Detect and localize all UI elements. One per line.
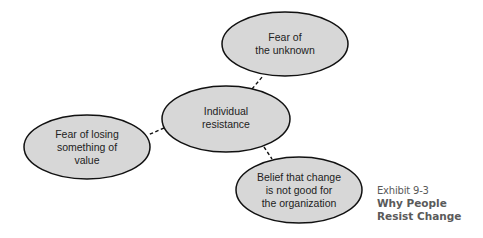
node-label-center: Individual resistance (202, 105, 250, 131)
node-text-line: the organization (257, 197, 341, 210)
exhibit-caption: Exhibit 9-3 Why People Resist Change (377, 184, 461, 223)
node-label-top: Fear of the unknown (255, 31, 315, 57)
node-label-left: Fear of losing something of value (55, 128, 119, 167)
exhibit-number: Exhibit 9-3 (377, 184, 461, 197)
exhibit-title-line: Why People (377, 197, 461, 210)
connector-center-bottom-right (264, 147, 272, 159)
diagram-canvas: Fear of the unknown Individual resistanc… (0, 0, 483, 238)
node-text-line: resistance (202, 118, 250, 131)
node-text-line: Belief that change (257, 171, 341, 184)
connector-center-top (252, 76, 263, 89)
node-text-line: the unknown (255, 44, 315, 57)
exhibit-title: Why People Resist Change (377, 197, 461, 223)
node-text-line: Fear of losing (55, 128, 119, 141)
node-text-line: Fear of (255, 31, 315, 44)
connector-center-left (148, 128, 164, 135)
node-text-line: something of (55, 141, 119, 154)
node-text-line: is not good for (257, 184, 341, 197)
node-text-line: Individual (202, 105, 250, 118)
node-text-line: value (55, 154, 119, 167)
exhibit-title-line: Resist Change (377, 210, 461, 223)
node-label-bottom-right: Belief that change is not good for the o… (257, 171, 341, 210)
